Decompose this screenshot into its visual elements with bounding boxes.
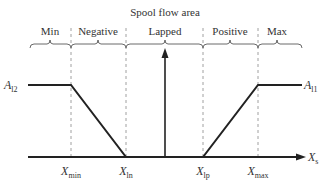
tick-label-xlp: Xlp xyxy=(195,164,210,180)
tick-label-xln: Xln xyxy=(118,164,133,180)
tick-label-xmax: Xmax xyxy=(246,164,268,180)
region-label-max: Max xyxy=(267,25,288,37)
brace-max xyxy=(258,40,302,48)
diagram-title: Spool flow area xyxy=(130,6,200,18)
label-xs: Xs xyxy=(307,150,318,166)
label-al2: Al2 xyxy=(3,78,18,94)
region-label-min: Min xyxy=(41,25,60,37)
x-axis-arrowhead-icon xyxy=(296,154,306,161)
vertical-axis xyxy=(162,48,169,157)
region-label-negative: Negative xyxy=(78,25,118,37)
spool-flow-area-diagram: Spool flow area Min Negative Lapped Posi… xyxy=(0,0,323,190)
brace-min xyxy=(30,40,71,48)
brace-positive xyxy=(203,40,258,48)
vertical-arrowhead-icon xyxy=(162,48,169,58)
brace-negative xyxy=(71,40,126,48)
label-al1: Al1 xyxy=(303,78,318,94)
tick-label-xmin: Xmin xyxy=(60,164,81,180)
region-label-positive: Positive xyxy=(212,25,248,37)
brace-lapped xyxy=(126,40,203,48)
x-axis xyxy=(28,154,306,161)
region-label-lapped: Lapped xyxy=(149,25,182,37)
